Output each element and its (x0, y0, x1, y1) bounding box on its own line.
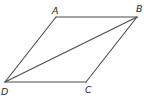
edges (5, 17, 137, 82)
vertex-label-c: C (85, 84, 92, 95)
edge-bc (86, 17, 137, 82)
vertex-label-d: D (1, 86, 8, 96)
edge-da (5, 17, 56, 82)
vertex-label-a: A (51, 5, 59, 16)
parallelogram-diagram: A B C D (0, 0, 144, 96)
diagonal-db (5, 17, 137, 82)
vertex-label-b: B (136, 3, 143, 14)
